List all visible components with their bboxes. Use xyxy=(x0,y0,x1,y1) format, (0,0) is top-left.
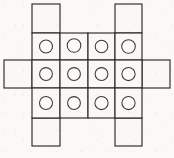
hole-r2c2 xyxy=(68,68,81,81)
hole-r3c1 xyxy=(40,97,53,110)
tab-cell-bottom-right xyxy=(115,118,142,146)
tab-cell-top-right xyxy=(115,4,142,33)
hole-r2c3 xyxy=(95,68,108,81)
tab-cell-left-middle xyxy=(4,60,32,88)
hole-r2c4 xyxy=(122,67,135,80)
tab-cell-top-left xyxy=(32,4,60,33)
hole-r3c4 xyxy=(122,96,135,109)
hole-r2c1 xyxy=(40,68,53,81)
hole-r1c1 xyxy=(40,40,53,53)
hole-r1c4 xyxy=(122,40,136,54)
tab-cell-bottom-left xyxy=(32,118,60,146)
tab-cell-right-middle xyxy=(142,60,170,88)
grid-net-figure xyxy=(0,0,174,158)
grid-net-canvas xyxy=(0,0,174,158)
hole-r3c3 xyxy=(95,96,108,109)
hole-r3c2 xyxy=(68,97,81,110)
hole-r1c2 xyxy=(67,39,81,53)
hole-r1c3 xyxy=(95,40,108,53)
